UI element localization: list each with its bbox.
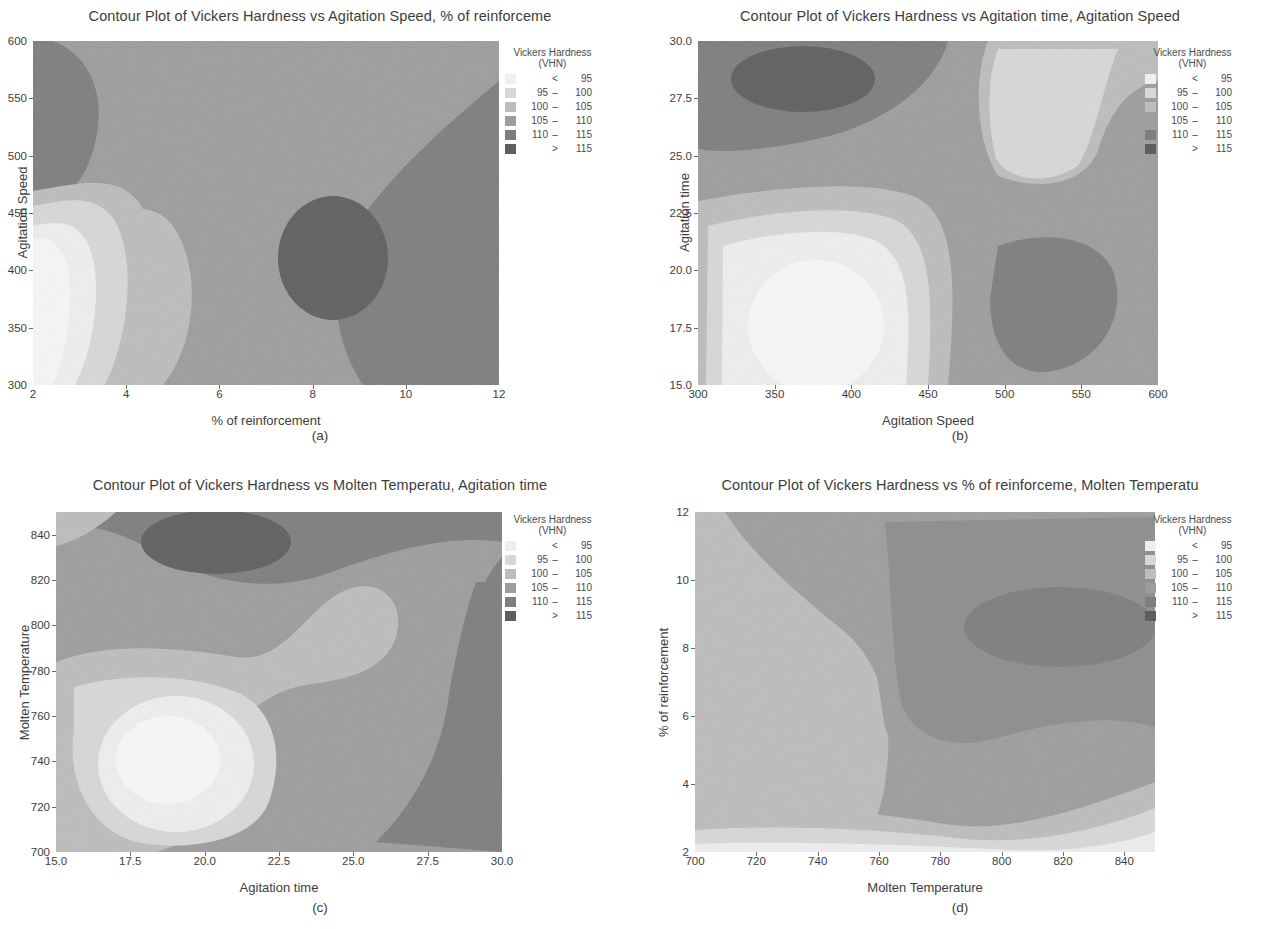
legend-range-op: – bbox=[548, 102, 562, 112]
legend-swatch-icon bbox=[1145, 541, 1156, 551]
legend-swatch-icon bbox=[1145, 569, 1156, 579]
panel-d-x-axis-label: Molten Temperature bbox=[695, 880, 1155, 895]
legend-swatch-icon bbox=[1145, 555, 1156, 565]
legend-range-high: 115 bbox=[562, 144, 592, 154]
legend-range-high: 115 bbox=[562, 611, 592, 621]
panel-b-xtick: 600 bbox=[1148, 388, 1167, 400]
legend-swatch-icon bbox=[1145, 116, 1156, 126]
legend-range-low: 100 bbox=[1162, 102, 1188, 112]
tick-mark bbox=[691, 648, 695, 649]
legend-subtitle: (VHN) bbox=[505, 526, 600, 536]
legend-swatch-icon bbox=[1145, 88, 1156, 98]
panel-a-contour-canvas bbox=[33, 41, 499, 385]
legend-range-low: 95 bbox=[1162, 555, 1188, 565]
legend-title: Vickers Hardness bbox=[1145, 48, 1240, 58]
tick-mark bbox=[52, 716, 56, 717]
panel-c-xtick: 30.0 bbox=[491, 855, 513, 867]
legend-item: <95 bbox=[505, 72, 600, 86]
legend-swatch-icon bbox=[505, 583, 516, 593]
panel-a-xtick: 12 bbox=[493, 388, 506, 400]
tick-mark bbox=[851, 385, 852, 389]
tick-mark bbox=[29, 213, 33, 214]
panel-d-xtick: 840 bbox=[1115, 855, 1134, 867]
legend-range-op: – bbox=[548, 555, 562, 565]
tick-mark bbox=[29, 328, 33, 329]
legend-item: >115 bbox=[1145, 609, 1240, 623]
tick-mark bbox=[52, 671, 56, 672]
panel-d-plot-area: 12 10 8 6 4 2 700 720 740 760 780 800 82… bbox=[695, 512, 1155, 852]
panel-a-legend: Vickers Hardness (VHN) <95 95–100 100–10… bbox=[505, 48, 600, 156]
legend-range-op: < bbox=[1188, 541, 1202, 551]
legend-range-op: – bbox=[1188, 555, 1202, 565]
panel-d-xtick: 760 bbox=[869, 855, 888, 867]
legend-range-low bbox=[522, 74, 548, 84]
panel-d-xtick: 780 bbox=[931, 855, 950, 867]
legend-range-high: 115 bbox=[1202, 130, 1232, 140]
panel-a-xtick: 6 bbox=[216, 388, 222, 400]
legend-range-low: 110 bbox=[522, 130, 548, 140]
tick-mark bbox=[205, 852, 206, 856]
panel-a-x-axis-label: % of reinforcement bbox=[33, 413, 499, 428]
legend-item: 110–115 bbox=[1145, 128, 1240, 142]
legend-range-op: > bbox=[548, 144, 562, 154]
panel-b: Contour Plot of Vickers Hardness vs Agit… bbox=[640, 0, 1280, 464]
legend-item: 100–105 bbox=[505, 100, 600, 114]
panel-c-xtick: 15.0 bbox=[45, 855, 67, 867]
panel-d-contour-canvas bbox=[695, 512, 1155, 852]
figure-grid: Contour Plot of Vickers Hardness vs Agit… bbox=[0, 0, 1280, 929]
panel-a-y-axis-label: Agitation Speed bbox=[15, 153, 30, 273]
legend-subtitle: (VHN) bbox=[505, 59, 600, 69]
legend-range-low: 105 bbox=[1162, 116, 1188, 126]
legend-item: <95 bbox=[1145, 72, 1240, 86]
legend-swatch-icon bbox=[505, 102, 516, 112]
tick-mark bbox=[52, 535, 56, 536]
tick-mark bbox=[52, 625, 56, 626]
panel-a-plot-area: 600 550 500 450 400 350 300 2 4 6 8 10 1… bbox=[33, 41, 499, 385]
legend-item: 110–115 bbox=[1145, 595, 1240, 609]
legend-range-op: – bbox=[1188, 88, 1202, 98]
legend-swatch-icon bbox=[505, 74, 516, 84]
panel-a-xtick: 2 bbox=[30, 388, 36, 400]
legend-item: <95 bbox=[505, 539, 600, 553]
tick-mark bbox=[879, 852, 880, 856]
tick-mark bbox=[52, 580, 56, 581]
legend-subtitle: (VHN) bbox=[1145, 526, 1240, 536]
tick-mark bbox=[940, 852, 941, 856]
legend-range-high: 100 bbox=[562, 88, 592, 98]
legend-item: >115 bbox=[505, 609, 600, 623]
legend-range-op: – bbox=[548, 88, 562, 98]
tick-mark bbox=[694, 328, 698, 329]
legend-range-op: < bbox=[548, 74, 562, 84]
tick-mark bbox=[1124, 852, 1125, 856]
panel-d-title: Contour Plot of Vickers Hardness vs % of… bbox=[640, 477, 1280, 493]
legend-range-high: 100 bbox=[1202, 555, 1232, 565]
tick-mark bbox=[279, 852, 280, 856]
panel-b-xtick: 500 bbox=[995, 388, 1014, 400]
tick-mark bbox=[52, 807, 56, 808]
legend-item: 100–105 bbox=[1145, 100, 1240, 114]
legend-range-op: – bbox=[548, 597, 562, 607]
legend-range-high: 105 bbox=[1202, 102, 1232, 112]
legend-item: <95 bbox=[1145, 539, 1240, 553]
legend-range-op: – bbox=[548, 130, 562, 140]
panel-d: Contour Plot of Vickers Hardness vs % of… bbox=[640, 465, 1280, 929]
legend-range-low: 105 bbox=[522, 583, 548, 593]
tick-mark bbox=[928, 385, 929, 389]
legend-range-op: > bbox=[548, 611, 562, 621]
legend-item: 105–110 bbox=[1145, 581, 1240, 595]
legend-range-op: – bbox=[1188, 116, 1202, 126]
tick-mark bbox=[313, 385, 314, 389]
tick-mark bbox=[219, 385, 220, 389]
legend-range-op: – bbox=[1188, 569, 1202, 579]
legend-range-low: 95 bbox=[522, 88, 548, 98]
legend-range-op: < bbox=[1188, 74, 1202, 84]
panel-c-xtick: 17.5 bbox=[119, 855, 141, 867]
tick-mark bbox=[775, 385, 776, 389]
legend-title: Vickers Hardness bbox=[1145, 515, 1240, 525]
tick-mark bbox=[691, 716, 695, 717]
tick-mark bbox=[29, 156, 33, 157]
panel-a-xtick: 10 bbox=[399, 388, 412, 400]
panel-c-xtick: 27.5 bbox=[416, 855, 438, 867]
tick-mark bbox=[818, 852, 819, 856]
legend-range-low: 105 bbox=[522, 116, 548, 126]
